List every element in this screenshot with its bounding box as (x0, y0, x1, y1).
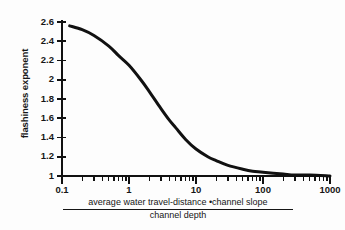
x-tick-mark-minor (259, 177, 260, 181)
y-tick-mark (57, 79, 66, 81)
y-tick-mark (57, 156, 66, 158)
x-tick-mark-minor (160, 177, 161, 181)
x-tick-mark-minor (93, 177, 94, 181)
x-tick-mark-major (61, 177, 63, 184)
x-tick-mark-minor (319, 177, 320, 181)
x-tick-mark-minor (108, 177, 109, 181)
x-tick-mark-minor (256, 177, 257, 181)
x-tick-mark-minor (185, 177, 186, 181)
y-tick-label: 1.6 (14, 113, 54, 123)
y-tick-label: 1 (14, 171, 54, 181)
x-tick-mark-minor (323, 177, 324, 181)
x-tick-mark-minor (309, 177, 310, 181)
y-tick-mark (57, 137, 66, 139)
x-tick-mark-minor (125, 177, 126, 181)
x-tick-mark-minor (180, 177, 181, 181)
x-tick-mark-minor (236, 177, 237, 181)
x-tick-mark-minor (303, 177, 304, 181)
x-tick-mark-minor (82, 177, 83, 181)
y-tick-mark (57, 21, 66, 23)
data-series-line (70, 26, 330, 176)
x-tick-mark-major (329, 177, 331, 184)
x-tick-mark-minor (216, 177, 217, 181)
x-tick-mark-minor (314, 177, 315, 181)
x-tick-mark-minor (192, 177, 193, 181)
y-tick-label: 2.2 (14, 55, 54, 65)
x-axis-caption-denominator: channel depth (63, 210, 293, 222)
x-tick-label: 100 (233, 185, 293, 195)
y-tick-label: 2.4 (14, 36, 54, 46)
x-tick-mark-major (262, 177, 264, 184)
y-tick-label: 1.2 (14, 151, 54, 161)
x-axis-caption: average water travel-distance •channel s… (63, 197, 293, 222)
y-tick-label: 2.6 (14, 17, 54, 27)
x-tick-label: 0.1 (32, 185, 92, 195)
x-axis-caption-numerator: average water travel-distance •channel s… (63, 197, 293, 210)
y-tick-mark (57, 60, 66, 62)
x-tick-mark-minor (294, 177, 295, 181)
y-tick-mark (57, 117, 66, 119)
y-tick-mark (57, 40, 66, 42)
x-tick-mark-minor (102, 177, 103, 181)
x-tick-label: 1 (99, 185, 159, 195)
chart-figure: flashiness exponent 11.21.41.61.822.22.4… (0, 0, 345, 230)
x-tick-mark-minor (169, 177, 170, 181)
y-tick-label: 1.4 (14, 132, 54, 142)
y-tick-label: 2 (14, 74, 54, 84)
x-tick-mark-minor (252, 177, 253, 181)
x-tick-mark-major (128, 177, 130, 184)
y-tick-label: 1.8 (14, 94, 54, 104)
x-tick-mark-minor (227, 177, 228, 181)
x-tick-mark-minor (189, 177, 190, 181)
x-tick-mark-minor (118, 177, 119, 181)
x-tick-mark-minor (175, 177, 176, 181)
x-tick-mark-major (195, 177, 197, 184)
y-tick-mark (57, 98, 66, 100)
x-tick-mark-minor (149, 177, 150, 181)
x-tick-label: 10 (166, 185, 226, 195)
x-tick-mark-minor (242, 177, 243, 181)
x-tick-mark-minor (122, 177, 123, 181)
x-tick-mark-minor (247, 177, 248, 181)
x-tick-mark-minor (326, 177, 327, 181)
x-tick-mark-minor (283, 177, 284, 181)
x-tick-label: 1000 (300, 185, 345, 195)
x-tick-mark-minor (113, 177, 114, 181)
